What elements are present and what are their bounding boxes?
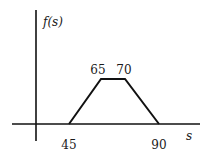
trapezoid-curve — [69, 79, 159, 124]
label-65: 65 — [90, 63, 105, 77]
label-45: 45 — [61, 138, 76, 152]
trapezoid-diagram: f(s) s 65 70 45 90 — [0, 0, 211, 159]
label-90: 90 — [151, 138, 166, 152]
label-70: 70 — [116, 63, 131, 77]
y-axis-label: f(s) — [42, 15, 63, 29]
x-axis-label: s — [186, 129, 192, 143]
